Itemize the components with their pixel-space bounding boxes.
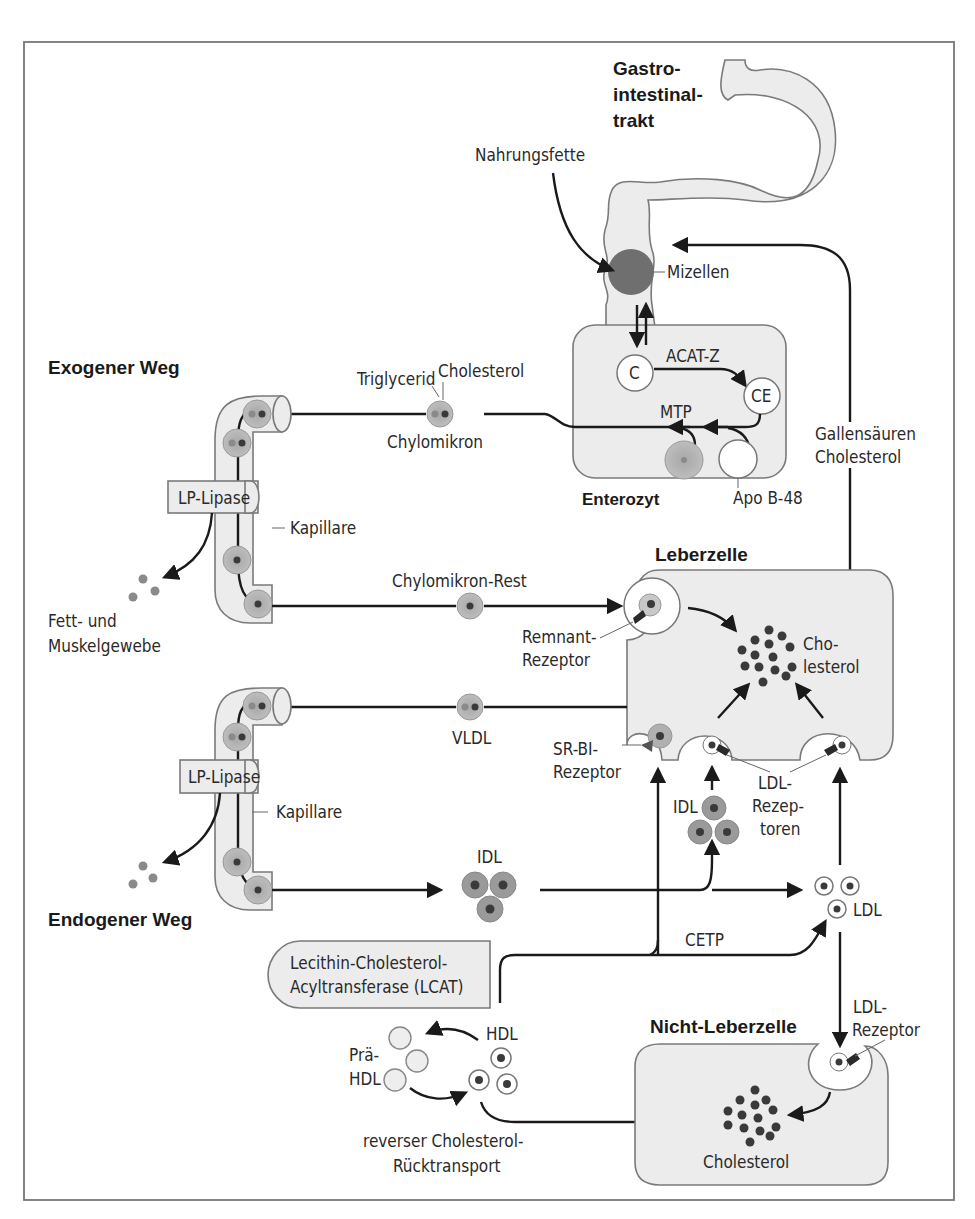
prehdl-to-hdl-arrow — [410, 1088, 465, 1099]
chylo-rest-label: Chylomikron-Rest — [392, 571, 527, 591]
gi-tract-title-1: Gastro- — [613, 58, 681, 79]
non-liver-cell-title: Nicht-Leberzelle — [650, 1016, 797, 1037]
reverse-transport-label-2: Rücktransport — [393, 1156, 500, 1176]
hdl-label: HDL — [486, 1024, 518, 1044]
srbi-label-1: SR-BI- — [553, 739, 598, 759]
lcat-box — [268, 941, 490, 1008]
dietary-fats-label: Nahrungsfette — [475, 145, 585, 165]
reverse-transport-label-1: reverser Cholesterol- — [363, 1131, 523, 1151]
nonliver-ldl-core — [836, 1059, 843, 1066]
lipoprotein-diagram: Gastro- intestinal- trakt Nahrungsfette … — [0, 0, 975, 1219]
liver-cell-title: Leberzelle — [655, 544, 748, 565]
gi-tract-title-3: trakt — [613, 110, 655, 131]
prehdl-label-1: Prä- — [349, 1045, 379, 1065]
micelles-label: Mizellen — [667, 262, 730, 282]
chylo-rest-core — [467, 603, 474, 610]
idl-to-liver-path — [540, 860, 712, 890]
triglyceride-core — [681, 457, 687, 463]
remnant-leader — [600, 622, 633, 638]
fa-dot — [151, 587, 160, 596]
ldl-receptors-label-2: Rezep- — [752, 796, 804, 816]
chylomicron-particle — [427, 401, 453, 427]
srbi-receptor-icon — [641, 740, 653, 752]
ldl-receptor-label-2: Rezeptor — [852, 1020, 921, 1040]
hdl-particles — [469, 1048, 517, 1094]
cetp-label: CETP — [685, 930, 724, 950]
cholesterol-label: Cholesterol — [438, 361, 524, 381]
srbi-core — [656, 732, 664, 740]
exogenous-path-title: Exogener Weg — [48, 357, 180, 378]
gi-tract-title-2: intestinal- — [613, 84, 703, 105]
ldl-receptors-label-1: LDL- — [758, 773, 792, 793]
c-label: C — [629, 363, 640, 383]
nonliver-chol-label: Cholesterol — [703, 1152, 789, 1172]
idl-label-right: IDL — [673, 797, 698, 817]
ldl-core — [839, 742, 846, 749]
lcat-label-1: Lecithin-Cholesterol- — [290, 953, 447, 973]
chylo-chol-dot — [442, 411, 449, 418]
endo-fat-arrow — [165, 793, 220, 862]
acat-label: ACAT-Z — [666, 346, 720, 366]
fa-dot — [139, 862, 148, 871]
enterocyte-title: Enterozyt — [582, 490, 660, 509]
lcat-label-2: Acyltransferase (LCAT) — [290, 977, 463, 997]
ldl-label: LDL — [853, 900, 882, 920]
fa-dot — [129, 880, 138, 889]
capillary-endo-label: Kapillare — [276, 802, 342, 822]
vldl-tg-dot — [462, 704, 469, 711]
fa-dot — [129, 593, 138, 602]
apo-b48-circle — [719, 440, 757, 478]
srbi-label-2: Rezeptor — [553, 762, 622, 782]
bile-label-2: Cholesterol — [815, 447, 901, 467]
triglyceride-label: Triglycerid — [356, 369, 435, 389]
fa-dot — [149, 874, 158, 883]
capillary-exo-label: Kapillare — [290, 518, 356, 538]
fat-muscle-label-1: Fett- und — [48, 611, 117, 631]
chylo-tg-dot — [432, 411, 439, 418]
fat-muscle-arrow — [165, 513, 212, 577]
ldl-core — [709, 742, 716, 749]
fat-muscle-label-2: Muskelgewebe — [48, 636, 161, 656]
capillary-endogenous — [215, 688, 291, 910]
lp-lipase-endo-label: LP-Lipase — [188, 767, 260, 787]
prehdl-label-2: HDL — [349, 1069, 381, 1089]
vldl-label: VLDL — [452, 728, 492, 748]
hdl-cetp-arrow — [500, 922, 825, 1003]
vldl-chol-dot — [472, 704, 479, 711]
remnant-receptor-label-1: Remnant- — [522, 627, 596, 647]
endogenous-path-title: Endogener Weg — [48, 909, 192, 930]
dietary-fats-arrow — [553, 173, 612, 270]
idl-label-center: IDL — [477, 847, 502, 867]
vldl-particle — [457, 694, 483, 720]
idl-particles-center — [462, 872, 516, 922]
bile-label-1: Gallensäuren — [815, 424, 916, 444]
chylomicron-label: Chylomikron — [387, 432, 483, 452]
hdl-to-prehdl-arrow — [428, 1029, 478, 1040]
mtp-label: MTP — [660, 402, 692, 422]
pre-hdl-particles — [384, 1027, 428, 1091]
remnant-core — [647, 600, 655, 608]
liver-chol-label-1: Cho- — [803, 634, 839, 654]
apo-b48-label: Apo B-48 — [733, 488, 803, 508]
lp-lipase-exo-label: LP-Lipase — [178, 488, 250, 508]
ldl-receptor-label-1: LDL- — [853, 997, 887, 1017]
liver-chol-label-2: lesterol — [803, 657, 860, 677]
ldl-receptors-label-3: toren — [760, 819, 800, 839]
micelle — [608, 249, 654, 295]
tg-leader — [432, 386, 439, 397]
fa-dot — [139, 575, 148, 584]
ce-label: CE — [751, 386, 771, 406]
remnant-receptor-label-2: Rezeptor — [522, 650, 591, 670]
